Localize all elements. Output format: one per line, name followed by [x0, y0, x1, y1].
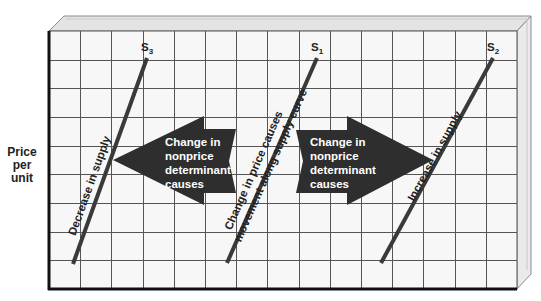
supply-shift-diagram: Decrease in supply Change in price cause… [0, 0, 541, 301]
y-axis-label-line3: unit [0, 172, 44, 185]
box-right-face [517, 16, 531, 289]
y-axis-label: Price per unit [0, 146, 44, 185]
box-top-face [49, 16, 531, 31]
